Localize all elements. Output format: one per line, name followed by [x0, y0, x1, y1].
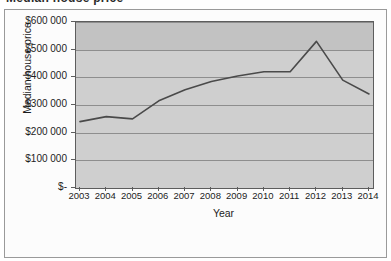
x-axis-tick-label: 2010 — [252, 190, 273, 201]
x-axis-tick-label: 2012 — [305, 190, 326, 201]
x-axis-tick-label: 2006 — [147, 190, 168, 201]
y-axis-tick-label: $300 000 — [1, 98, 67, 109]
x-axis-tick-label: 2011 — [279, 190, 299, 201]
x-axis-title: Year — [75, 207, 372, 219]
y-axis-tick-label: $500 000 — [1, 43, 67, 54]
x-axis-tick-label: 2008 — [200, 190, 221, 201]
plot-area — [75, 21, 374, 189]
x-axis-tick-label: 2003 — [68, 190, 89, 201]
x-axis-tick-label: 2004 — [95, 190, 116, 201]
cut-off-title-text: Median house price — [6, 0, 123, 4]
y-axis-tick-label: $200 000 — [1, 126, 67, 137]
x-axis-tick-labels: 2003200420052006200720082009201020112012… — [75, 190, 372, 204]
x-axis-tick-label: 2005 — [121, 190, 142, 201]
y-axis-tick-label: $100 000 — [1, 153, 67, 164]
x-axis-tick-label: 2007 — [174, 190, 195, 201]
y-axis-tick-label: $400 000 — [1, 70, 67, 81]
chart-figure: Median house price $-$100 000$200 000$30… — [4, 9, 387, 258]
x-axis-tick-label: 2009 — [226, 190, 247, 201]
x-axis-tick-label: 2014 — [357, 190, 378, 201]
y-axis-tick-label: $600 000 — [1, 15, 67, 26]
y-axis-title: Median house price — [21, 8, 33, 128]
x-axis-tick-label: 2013 — [331, 190, 352, 201]
cut-off-title: Median house price — [0, 0, 391, 8]
y-axis-tick-label: $- — [1, 181, 67, 192]
data-line-series — [76, 22, 373, 188]
